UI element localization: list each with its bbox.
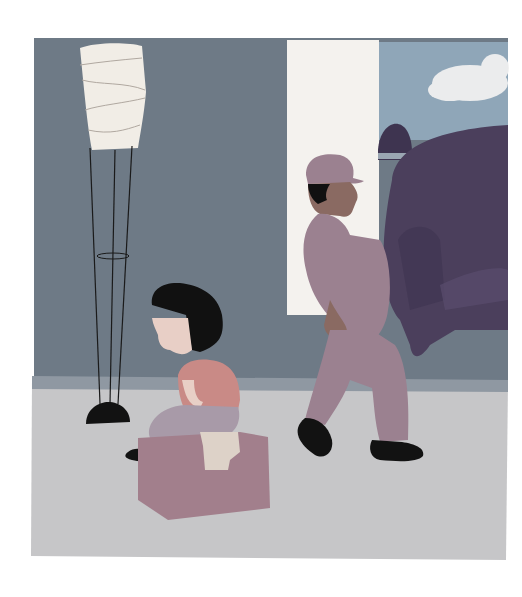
cardboard-box xyxy=(138,432,270,520)
illustration xyxy=(0,0,522,597)
